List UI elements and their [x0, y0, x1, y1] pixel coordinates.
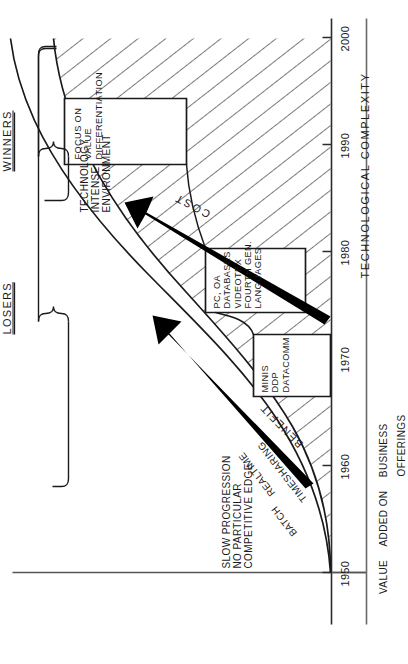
callout-slow-line-1: SLOW PROGRESSION	[220, 455, 231, 568]
callout-focus-line-1: FOCUS ON	[72, 72, 82, 160]
callout-slow-line-2: NO PARTICULAR	[231, 455, 242, 568]
x-tick-1990: 1990	[338, 132, 350, 158]
callout-era-80s-line-3: VIDEOTEX	[232, 240, 242, 308]
y-axis-title: VALUE ADDED ON BUSINESS OFFERINGS	[372, 414, 408, 624]
callout-era-80s-line-4: FOURTH GEN.	[242, 240, 252, 308]
y-axis-title-line-4: OFFERINGS	[395, 414, 406, 476]
callout-era-70s: MINIS DDP DATACOMM	[259, 337, 290, 392]
callout-era-80s: PC, OA DATABASES VIDEOTEX FOURTH GEN. LA…	[211, 240, 262, 308]
callout-era-80s-line-1: PC, OA	[211, 240, 221, 308]
x-tick-1980: 1980	[338, 239, 350, 265]
x-tick-1960: 1960	[338, 453, 350, 479]
x-tick-1970: 1970	[338, 346, 350, 372]
x-tick-1950: 1950	[338, 560, 350, 586]
x-axis-title: TECHNOLOGICAL COMPLEXITY	[358, 72, 370, 278]
callout-era-70s-line-1: MINIS	[259, 337, 269, 392]
callout-era-70s-line-3: DATACOMM	[280, 337, 290, 392]
y-axis-title-line-1: VALUE	[377, 559, 388, 593]
x-tick-2000: 2000	[338, 25, 350, 51]
losers-label: LOSERS	[0, 282, 12, 334]
callout-focus-line-3: DIFFERENTIATION	[93, 72, 103, 160]
callout-era-80s-line-2: DATABASES	[221, 240, 231, 308]
callout-focus: FOCUS ON VALUE DIFFERENTIATION	[72, 72, 103, 160]
y-axis-title-line-2: ADDED ON	[377, 490, 388, 546]
callout-era-70s-line-2: DDP	[269, 337, 279, 392]
y-axis-title-line-3: BUSINESS	[377, 423, 388, 477]
winners-label: WINNERS	[0, 110, 12, 171]
callout-era-80s-line-5: LANGUAGES	[252, 240, 262, 308]
callout-focus-line-2: VALUE	[82, 72, 92, 160]
